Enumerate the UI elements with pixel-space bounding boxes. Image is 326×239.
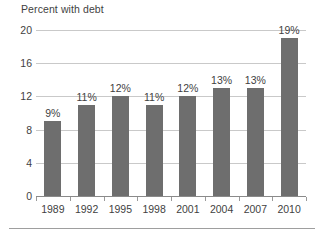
gridline: [36, 30, 306, 31]
y-axis-tick-label: 0: [10, 191, 32, 202]
bar[interactable]: [281, 38, 298, 196]
bar-value-label: 11%: [137, 92, 171, 103]
bar[interactable]: [44, 121, 61, 196]
bar[interactable]: [112, 96, 129, 196]
gridline: [36, 63, 306, 64]
x-axis-tick-mark: [36, 197, 37, 201]
x-axis-tick-mark: [70, 197, 71, 201]
bar-value-label: 13%: [205, 75, 239, 86]
x-axis-tick-mark: [306, 197, 307, 201]
x-axis-tick-label: 2010: [269, 204, 309, 215]
y-axis-tick-label: 4: [10, 158, 32, 169]
bar-chart-figure: Percent with debt 048121620 9%11%12%11%1…: [0, 0, 326, 239]
x-axis-tick-mark: [205, 197, 206, 201]
y-axis-tick-label: 8: [10, 125, 32, 136]
bar[interactable]: [179, 96, 196, 196]
x-axis-tick-mark: [272, 197, 273, 201]
x-axis-tick-mark: [171, 197, 172, 201]
bar-value-label: 11%: [70, 92, 104, 103]
chart-title: Percent with debt: [21, 3, 104, 15]
bar[interactable]: [213, 88, 230, 196]
bar[interactable]: [146, 105, 163, 196]
bar-value-label: 19%: [272, 25, 306, 36]
x-axis-tick-mark: [137, 197, 138, 201]
bottom-divider: [9, 228, 315, 229]
plot-area: 9%11%12%11%12%13%13%19%: [36, 30, 306, 196]
gridline: [36, 163, 306, 164]
bar-value-label: 12%: [171, 83, 205, 94]
bar[interactable]: [78, 105, 95, 196]
y-axis-tick-label: 20: [10, 25, 32, 36]
bar-value-label: 9%: [36, 108, 70, 119]
gridline: [36, 130, 306, 131]
bar-value-label: 12%: [103, 83, 137, 94]
y-axis-tick-label: 12: [10, 91, 32, 102]
x-axis-tick-mark: [239, 197, 240, 201]
y-axis-tick-label: 16: [10, 58, 32, 69]
x-axis-tick-mark: [104, 197, 105, 201]
bar-value-label: 13%: [238, 75, 272, 86]
bar[interactable]: [247, 88, 264, 196]
